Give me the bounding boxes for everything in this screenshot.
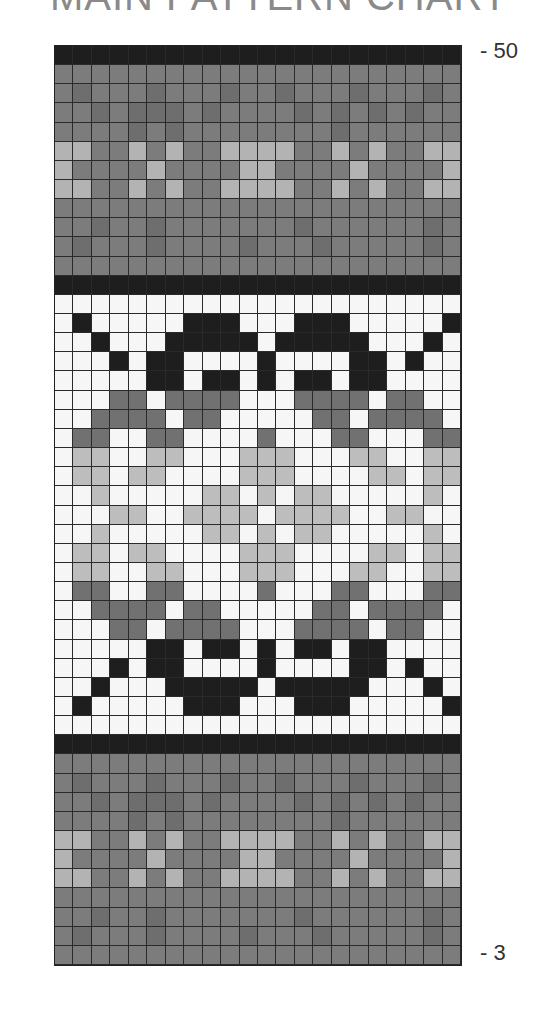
grid-cell [350, 333, 368, 352]
grid-cell [258, 908, 276, 927]
grid-cell [240, 831, 258, 850]
grid-cell [332, 908, 350, 927]
grid-cell [55, 620, 73, 639]
grid-cell [350, 697, 368, 716]
grid-cell [276, 352, 294, 371]
grid-cell [350, 716, 368, 735]
pattern-grid [54, 45, 462, 966]
grid-cell [406, 391, 424, 410]
grid-cell [184, 65, 202, 84]
grid-cell [424, 123, 442, 142]
grid-cell [332, 314, 350, 333]
grid-cell [276, 620, 294, 639]
grid-cell [276, 486, 294, 505]
grid-cell [406, 659, 424, 678]
grid-cell [55, 716, 73, 735]
grid-cell [258, 391, 276, 410]
grid-cell [73, 486, 91, 505]
grid-cell [110, 850, 128, 869]
grid-cell [203, 850, 221, 869]
grid-cell [406, 467, 424, 486]
grid-cell [166, 908, 184, 927]
grid-cell [387, 276, 405, 295]
grid-cell [295, 410, 313, 429]
grid-cell [129, 199, 147, 218]
grid-cell [313, 659, 331, 678]
grid-cell [221, 84, 239, 103]
grid-cell [424, 678, 442, 697]
grid-cell [147, 697, 165, 716]
grid-cell [73, 142, 91, 161]
grid-cell [258, 295, 276, 314]
grid-cell [55, 774, 73, 793]
grid-cell [332, 544, 350, 563]
grid-cell [387, 697, 405, 716]
grid-cell [295, 237, 313, 256]
grid-cell [313, 831, 331, 850]
grid-cell [184, 927, 202, 946]
grid-cell [184, 295, 202, 314]
grid-cell [424, 391, 442, 410]
grid-cell [147, 410, 165, 429]
grid-cell [147, 716, 165, 735]
grid-cell [258, 506, 276, 525]
grid-cell [240, 276, 258, 295]
grid-cell [424, 448, 442, 467]
grid-cell [166, 620, 184, 639]
grid-cell [221, 314, 239, 333]
grid-cell [73, 927, 91, 946]
grid-cell [110, 946, 128, 965]
grid-cell [313, 410, 331, 429]
grid-cell [258, 735, 276, 754]
grid-cell [147, 544, 165, 563]
grid-cell [313, 697, 331, 716]
grid-cell [55, 295, 73, 314]
grid-cell [424, 582, 442, 601]
grid-cell [332, 257, 350, 276]
grid-cell [295, 333, 313, 352]
grid-cell [276, 908, 294, 927]
grid-cell [369, 831, 387, 850]
grid-cell [240, 582, 258, 601]
grid-cell [369, 161, 387, 180]
grid-cell [295, 525, 313, 544]
grid-cell [350, 46, 368, 65]
grid-cell [129, 257, 147, 276]
grid-cell [166, 237, 184, 256]
grid-cell [295, 678, 313, 697]
grid-cell [92, 46, 110, 65]
grid-cell [406, 831, 424, 850]
grid-cell [221, 793, 239, 812]
grid-cell [313, 467, 331, 486]
grid-cell [258, 46, 276, 65]
grid-cell [203, 65, 221, 84]
grid-cell [203, 793, 221, 812]
grid-cell [258, 103, 276, 122]
grid-cell [258, 429, 276, 448]
grid-cell [276, 218, 294, 237]
grid-cell [221, 199, 239, 218]
grid-cell [203, 467, 221, 486]
grid-cell [406, 180, 424, 199]
grid-cell [276, 448, 294, 467]
grid-cell [406, 697, 424, 716]
grid-cell [387, 65, 405, 84]
grid-cell [406, 237, 424, 256]
grid-cell [443, 659, 461, 678]
grid-cell [55, 946, 73, 965]
grid-cell [203, 352, 221, 371]
grid-cell [276, 563, 294, 582]
grid-cell [369, 391, 387, 410]
grid-cell [295, 276, 313, 295]
grid-cell [147, 659, 165, 678]
grid-cell [73, 563, 91, 582]
grid-cell [313, 161, 331, 180]
grid-cell [295, 697, 313, 716]
grid-cell [221, 697, 239, 716]
grid-cell [73, 582, 91, 601]
grid-cell [203, 812, 221, 831]
grid-cell [295, 199, 313, 218]
grid-cell [110, 640, 128, 659]
grid-cell [424, 352, 442, 371]
grid-cell [443, 429, 461, 448]
